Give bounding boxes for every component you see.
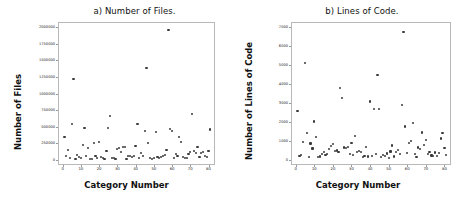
scatter-point	[404, 125, 406, 127]
scatter-point	[384, 155, 386, 157]
y-tick-label: 0	[0, 158, 55, 162]
scatter-point	[399, 153, 401, 155]
panel-b-x-axis-label: Category Number	[241, 180, 467, 190]
scatter-point	[209, 128, 211, 130]
scatter-point	[147, 142, 149, 144]
x-tick-mark	[444, 165, 445, 167]
scatter-point	[395, 151, 397, 153]
x-tick-label: 80	[206, 167, 211, 171]
x-tick-mark	[190, 165, 191, 167]
y-tick-label: 1500000	[0, 58, 55, 62]
scatter-point	[198, 156, 200, 158]
scatter-point	[69, 157, 71, 159]
scatter-point	[369, 100, 371, 102]
scatter-point	[155, 131, 157, 133]
y-tick-mark	[56, 143, 58, 144]
scatter-point	[402, 31, 404, 33]
panel-a-data-points	[59, 23, 214, 164]
scatter-point	[114, 158, 116, 160]
scatter-point	[134, 145, 136, 147]
scatter-point	[72, 78, 74, 80]
scatter-point	[432, 155, 434, 157]
scatter-point	[315, 136, 317, 138]
x-tick-mark	[154, 165, 155, 167]
x-tick-label: 30	[349, 167, 354, 171]
scatter-point	[206, 156, 208, 158]
y-tick-label: 1250000	[0, 75, 55, 79]
scatter-point	[80, 157, 82, 159]
y-tick-mark	[289, 65, 291, 66]
scatter-point	[425, 139, 427, 141]
x-tick-label: 50	[386, 167, 391, 171]
y-tick-label: 1000000	[0, 92, 55, 96]
y-tick-mark	[56, 110, 58, 111]
scatter-point	[171, 130, 173, 132]
panel-a-x-axis-label: Category Number	[10, 180, 243, 190]
scatter-point	[415, 156, 417, 158]
panel-b-title: b) Lines of Code.	[233, 6, 467, 16]
x-tick-label: 10	[78, 167, 83, 171]
x-tick-mark	[407, 165, 408, 167]
y-tick-mark	[56, 60, 58, 61]
x-tick-mark	[426, 165, 427, 167]
x-tick-label: 30	[115, 167, 120, 171]
scatter-point	[328, 148, 330, 150]
scatter-point	[178, 136, 180, 138]
x-tick-mark	[351, 165, 352, 167]
scatter-point	[388, 157, 390, 159]
y-tick-mark	[289, 46, 291, 47]
scatter-point	[98, 141, 100, 143]
scatter-point	[354, 135, 356, 137]
scatter-point	[167, 29, 169, 31]
scatter-point	[319, 155, 321, 157]
y-tick-label: 500000	[0, 125, 55, 129]
x-tick-label: 40	[133, 167, 138, 171]
scatter-point	[380, 156, 382, 158]
scatter-point	[118, 147, 120, 149]
x-tick-label: 60	[405, 167, 410, 171]
x-tick-mark	[333, 165, 334, 167]
scatter-point	[321, 153, 323, 155]
x-tick-label: 0	[294, 167, 296, 171]
y-tick-mark	[289, 27, 291, 28]
y-tick-mark	[56, 160, 58, 161]
y-tick-label: 250000	[0, 141, 55, 145]
scatter-point	[107, 127, 109, 129]
scatter-point	[363, 155, 365, 157]
scatter-point	[296, 110, 298, 112]
x-tick-label: 50	[151, 167, 156, 171]
scatter-point	[365, 146, 367, 148]
scatter-point	[436, 155, 438, 157]
y-tick-mark	[289, 84, 291, 85]
y-tick-mark	[289, 103, 291, 104]
y-tick-label: 2000000	[0, 25, 55, 29]
x-tick-label: 60	[170, 167, 175, 171]
panel-b-data-points	[292, 23, 450, 164]
scatter-point	[125, 158, 127, 160]
y-tick-mark	[289, 141, 291, 142]
x-tick-mark	[389, 165, 390, 167]
scatter-point	[165, 149, 167, 151]
y-tick-label: 1000	[233, 139, 288, 143]
scatter-point	[393, 155, 395, 157]
y-tick-mark	[56, 27, 58, 28]
scatter-point	[308, 156, 310, 158]
scatter-point	[120, 151, 122, 153]
scatter-point	[186, 157, 188, 159]
scatter-point	[144, 130, 146, 132]
scatter-point	[423, 144, 425, 146]
scatter-point	[96, 157, 98, 159]
scatter-point	[309, 142, 311, 144]
x-tick-label: 10	[312, 167, 317, 171]
scatter-point	[306, 132, 308, 134]
scatter-point	[443, 147, 445, 149]
x-tick-mark	[172, 165, 173, 167]
scatter-point	[313, 120, 315, 122]
y-tick-label: 7000	[233, 25, 288, 29]
panel-b-plot-area	[291, 22, 451, 165]
x-tick-mark	[99, 165, 100, 167]
x-tick-mark	[81, 165, 82, 167]
scatter-point	[350, 142, 352, 144]
y-tick-label: 3000	[233, 101, 288, 105]
scatter-point	[196, 146, 198, 148]
